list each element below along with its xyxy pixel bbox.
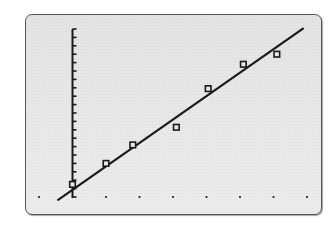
x-axis-dot	[38, 196, 40, 198]
x-axis-dot	[239, 196, 241, 198]
data-point	[205, 86, 211, 92]
data-point	[274, 51, 280, 57]
x-axis-dot	[172, 196, 174, 198]
regression-line	[57, 28, 303, 200]
x-axis-dot	[272, 196, 274, 198]
data-point	[174, 124, 180, 130]
data-point	[130, 142, 136, 148]
data-point	[70, 182, 76, 188]
scatter-plot	[0, 0, 334, 228]
x-axis-dot	[306, 196, 308, 198]
x-axis-dot	[105, 196, 107, 198]
data-point	[103, 161, 109, 167]
x-axis-dot	[205, 196, 207, 198]
data-point	[241, 61, 247, 67]
x-axis-dot	[138, 196, 140, 198]
